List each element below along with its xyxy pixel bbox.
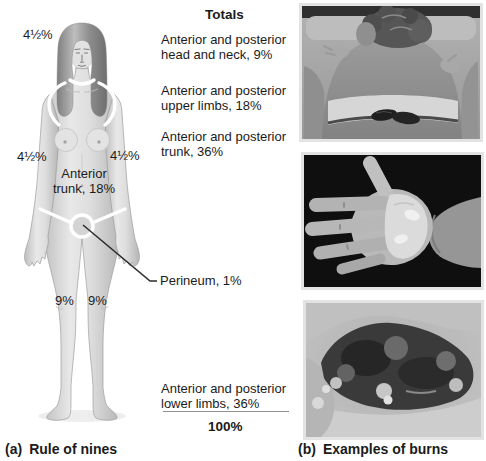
totals-item-line: trunk, 36% <box>161 145 297 160</box>
anterior-trunk-label-line2: trunk, 18% <box>46 181 122 196</box>
totals-item-line: Anterior and posterior <box>161 130 297 145</box>
right-leg-percentage-label: 9% <box>88 293 107 308</box>
left-leg-percentage-label: 9% <box>55 293 74 308</box>
burn-photo-posterior-trunk <box>299 3 483 142</box>
caption-examples-of-burns: (b) Examples of burns <box>298 441 448 457</box>
totals-item-upper-limbs: Anterior and posterior upper limbs, 18% <box>161 84 297 113</box>
totals-title: Totals <box>205 7 244 22</box>
totals-item-line: head and neck, 9% <box>161 48 297 63</box>
burn-photo-hand <box>301 152 484 290</box>
totals-sum-rule <box>163 411 289 412</box>
totals-item-lower-limbs: Anterior and posterior lower limbs, 36% <box>161 382 297 411</box>
grand-total: 100% <box>208 419 243 434</box>
anterior-trunk-label-line1: Anterior <box>46 166 122 181</box>
totals-item-line: upper limbs, 18% <box>161 99 297 114</box>
caption-rule-of-nines: (a) Rule of nines <box>5 441 117 457</box>
totals-item-line: Anterior and posterior <box>161 33 297 48</box>
photo1-head <box>356 22 376 46</box>
caption-b-text: Examples of burns <box>323 441 448 457</box>
perineum-label: Perineum, 1% <box>160 273 242 288</box>
totals-item-trunk: Anterior and posterior trunk, 36% <box>161 130 297 159</box>
left-arm-percentage-label: 4½% <box>17 149 47 164</box>
totals-item-line: Anterior and posterior <box>161 84 297 99</box>
caption-a-text: Rule of nines <box>29 441 117 457</box>
right-arm-percentage-label: 4½% <box>110 148 140 163</box>
head-percentage-label: 4½% <box>23 27 53 42</box>
totals-item-line: Anterior and posterior <box>161 382 297 397</box>
burn-photo-lower-limb <box>303 300 484 440</box>
caption-a-prefix: (a) <box>5 441 22 457</box>
caption-b-prefix: (b) <box>298 441 316 457</box>
anterior-trunk-label: Anterior trunk, 18% <box>46 166 122 196</box>
totals-item-line: lower limbs, 36% <box>161 397 297 412</box>
totals-item-head-neck: Anterior and posterior head and neck, 9% <box>161 33 297 62</box>
rule-of-nines-figure: 4½% 4½% 4½% Anterior trunk, 18% 9% 9% Pe… <box>0 0 486 461</box>
